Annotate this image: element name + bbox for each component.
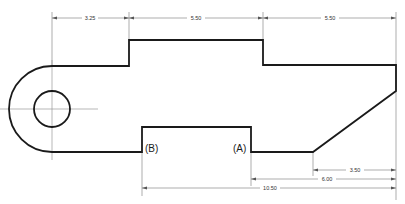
- label-point-a: (A): [233, 143, 246, 154]
- dimension-line-3-25: 3.25: [52, 14, 129, 22]
- label-point-b: (B): [145, 143, 158, 154]
- dimension-line-6-00: 6.00: [251, 175, 396, 183]
- dimension-line-5-50-top: 5.50: [129, 14, 263, 22]
- dim-text-5-50-top: 5.50: [191, 15, 202, 21]
- dimension-line-3-50: 3.50: [313, 166, 396, 174]
- dim-text-5-50-right: 5.50: [325, 15, 336, 21]
- dimension-line-10-50: 10.50: [142, 184, 396, 192]
- technical-drawing: 3.25 5.50 5.50 (B) (A) 3.50 6.00: [0, 0, 405, 204]
- dimension-line-5-50-right: 5.50: [263, 14, 396, 22]
- dim-text-6-00: 6.00: [322, 176, 333, 182]
- dim-text-10-50: 10.50: [263, 185, 277, 191]
- part-outline: [9, 40, 396, 152]
- center-lines: [0, 60, 98, 160]
- dim-text-3-25: 3.25: [85, 15, 96, 21]
- dim-text-3-50: 3.50: [350, 167, 361, 173]
